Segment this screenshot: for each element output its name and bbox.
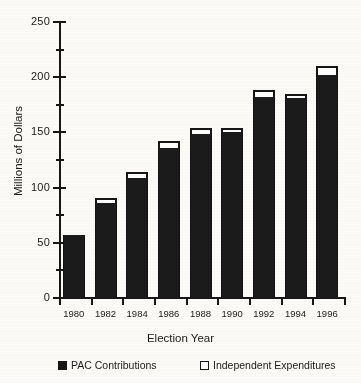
x-tick <box>249 298 251 305</box>
y-tick-label: 50 <box>8 236 50 248</box>
x-tick <box>344 298 346 305</box>
bar-chart: 050100150200250 198019821984198619881990… <box>0 0 361 383</box>
y-axis-title: Millions of Dollars <box>12 71 24 231</box>
legend-label-independent-expenditures: Independent Expenditures <box>213 359 336 371</box>
x-tick <box>281 298 283 305</box>
bar-1996 <box>316 66 338 298</box>
bar-1988 <box>190 128 212 298</box>
x-tick <box>122 298 124 305</box>
bar-1980 <box>63 235 85 298</box>
legend-item-pac-contributions: PAC Contributions <box>58 359 157 371</box>
x-tick <box>154 298 156 305</box>
x-tick <box>59 298 61 305</box>
bar-segment-pac-contributions <box>285 98 307 298</box>
y-tick-label: 0 <box>8 291 50 303</box>
hollow-square-icon <box>200 361 209 370</box>
bar-1990 <box>221 128 243 298</box>
bar-segment-pac-contributions <box>316 75 338 298</box>
bar-1984 <box>126 172 148 298</box>
bar-1994 <box>285 94 307 298</box>
x-tick <box>91 298 93 305</box>
x-tick <box>186 298 188 305</box>
x-axis-title: Election Year <box>0 332 361 344</box>
bar-segment-pac-contributions <box>190 134 212 298</box>
bar-segment-pac-contributions <box>253 97 275 298</box>
x-tick-label-1996: 1996 <box>307 308 347 319</box>
chart-legend: PAC Contributions Independent Expenditur… <box>0 359 361 377</box>
bars-container <box>60 22 345 298</box>
legend-label-pac-contributions: PAC Contributions <box>71 359 157 371</box>
bar-segment-pac-contributions <box>63 235 85 298</box>
bar-segment-pac-contributions <box>126 178 148 298</box>
bar-1982 <box>95 198 117 298</box>
legend-item-independent-expenditures: Independent Expenditures <box>200 359 336 371</box>
x-tick <box>217 298 219 305</box>
bar-segment-pac-contributions <box>95 203 117 298</box>
y-tick-label: 250 <box>8 15 50 27</box>
bar-segment-pac-contributions <box>221 132 243 298</box>
bar-1986 <box>158 141 180 298</box>
bar-1992 <box>253 90 275 298</box>
filled-square-icon <box>58 361 67 370</box>
x-tick <box>312 298 314 305</box>
bar-segment-pac-contributions <box>158 148 180 298</box>
